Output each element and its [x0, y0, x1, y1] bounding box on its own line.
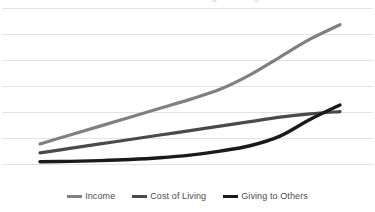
line-chart: Income vs. Cost of Living vs. Giving Inc… — [0, 0, 375, 212]
series-line-giving-to-others — [40, 105, 340, 162]
chart-legend: Income Cost of Living Giving to Others — [0, 188, 375, 204]
legend-swatch-income — [67, 195, 82, 198]
legend-label-income: Income — [85, 191, 115, 201]
series-line-cost-of-living — [40, 112, 340, 153]
legend-label-cost-of-living: Cost of Living — [150, 191, 206, 201]
gridlines — [2, 8, 373, 164]
legend-item-income[interactable]: Income — [67, 191, 115, 201]
legend-item-cost-of-living[interactable]: Cost of Living — [132, 191, 206, 201]
legend-item-giving-to-others[interactable]: Giving to Others — [223, 191, 308, 201]
legend-swatch-giving-to-others — [223, 195, 238, 198]
plot-svg — [0, 0, 375, 180]
plot-area — [0, 0, 375, 180]
legend-swatch-cost-of-living — [132, 195, 147, 198]
legend-label-giving-to-others: Giving to Others — [241, 191, 308, 201]
series-lines — [40, 25, 340, 162]
series-line-income — [40, 25, 340, 144]
